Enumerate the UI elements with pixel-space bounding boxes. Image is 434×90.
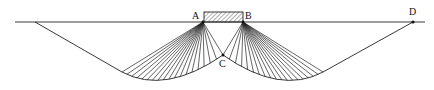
label-b: B [245,10,252,21]
fan-ray [243,22,277,79]
fan-ray [127,22,203,74]
fan-rays-from-b [223,22,323,80]
label-d: D [409,6,416,17]
left-wedge-line [35,22,122,72]
point-d [411,20,414,23]
fan-ray [122,22,203,72]
label-a: A [192,10,200,21]
footing [204,12,243,22]
fan-ray [169,22,203,79]
right-wedge-line [323,22,413,72]
point-b [242,21,245,24]
point-c [222,54,225,57]
fan-rays-from-a [122,22,223,80]
failure-surface-diagram: A B C D [0,0,434,90]
fan-ray [137,22,203,78]
point-a [202,21,205,24]
label-c: C [219,58,226,69]
